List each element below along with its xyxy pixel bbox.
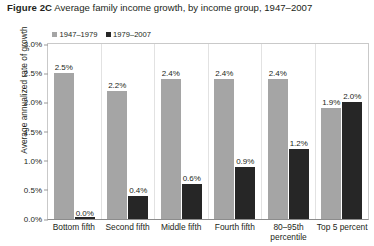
y-tick-label: 3.0%: [24, 40, 48, 49]
bar-value-label: 0.0%: [76, 209, 94, 218]
legend-swatch-icon: [106, 32, 111, 37]
bar-value-label: 2.4%: [215, 69, 233, 78]
bar[interactable]: [268, 79, 288, 219]
bar-column: 2.4%: [268, 44, 288, 219]
legend-swatch-icon: [52, 32, 57, 37]
y-tick-label: 1.0%: [24, 156, 48, 165]
x-axis-labels: Bottom fifthSecond fifthMiddle fifthFour…: [47, 222, 369, 243]
bar-group: 2.4%0.9%: [209, 44, 263, 219]
bar-group: 2.2%0.4%: [102, 44, 156, 219]
bar-column: 2.5%: [54, 44, 74, 219]
x-tick-label: Top 5 percent: [315, 222, 369, 243]
x-tick-label: 80–95th percentile: [262, 222, 316, 243]
bar-column: 1.2%: [289, 44, 309, 219]
bar-pair: 2.5%0.0%: [48, 44, 101, 219]
bar-group: 2.4%1.2%: [262, 44, 316, 219]
bar-value-label: 0.9%: [236, 157, 254, 166]
bar-pair: 1.9%2.0%: [316, 44, 369, 219]
legend-item-1947-1979: 1947–1979: [52, 30, 98, 39]
bar[interactable]: [235, 167, 255, 220]
bar-value-label: 0.4%: [129, 186, 147, 195]
bar-column: 2.2%: [107, 44, 127, 219]
bar-group: 1.9%2.0%: [316, 44, 369, 219]
figure-number: Figure 2C: [7, 2, 52, 13]
legend-label: 1947–1979: [60, 30, 98, 39]
bar-pair: 2.4%0.6%: [155, 44, 208, 219]
bar-group: 2.4%0.6%: [155, 44, 209, 219]
bar-value-label: 2.5%: [55, 63, 73, 72]
chart-legend: 1947–1979 1979–2007: [52, 30, 151, 39]
bar-pair: 2.4%0.9%: [209, 44, 262, 219]
x-tick-label: Bottom fifth: [47, 222, 101, 243]
bar-value-label: 2.4%: [162, 69, 180, 78]
bar-column: 0.6%: [182, 44, 202, 219]
bar-value-label: 1.2%: [290, 139, 308, 148]
bar[interactable]: [182, 184, 202, 219]
bar-groups: 2.5%0.0%2.2%0.4%2.4%0.6%2.4%0.9%2.4%1.2%…: [48, 44, 368, 219]
bar[interactable]: [54, 73, 74, 219]
bar-column: 1.9%: [321, 44, 341, 219]
plot-area: 3.0% 2.5% 2.0% 1.5% 1.0% 0.5% 0.0% 2.5%0…: [47, 43, 369, 220]
x-tick-label: Second fifth: [101, 222, 155, 243]
bar-value-label: 2.2%: [108, 81, 126, 90]
bar-column: 2.4%: [161, 44, 181, 219]
x-tick-label: Middle fifth: [154, 222, 208, 243]
figure-title-block: Figure 2C Average family income growth, …: [7, 2, 369, 15]
x-tick-label: Fourth fifth: [208, 222, 262, 243]
bar[interactable]: [214, 79, 234, 219]
y-tick-label: 1.5%: [24, 127, 48, 136]
y-tick-label: 0.5%: [24, 185, 48, 194]
bar-pair: 2.4%1.2%: [262, 44, 315, 219]
page-title: Average family income growth, by income …: [54, 2, 312, 13]
legend-label: 1979–2007: [113, 30, 151, 39]
bar-value-label: 1.9%: [322, 98, 340, 107]
y-tick-label: 0.0%: [24, 215, 48, 224]
bar[interactable]: [128, 196, 148, 219]
bar-column: 0.9%: [235, 44, 255, 219]
bar[interactable]: [342, 102, 362, 219]
bar-pair: 2.2%0.4%: [102, 44, 155, 219]
bar-column: 2.4%: [214, 44, 234, 219]
bar-value-label: 2.0%: [343, 92, 361, 101]
bar-value-label: 2.4%: [269, 69, 287, 78]
bar-value-label: 0.6%: [183, 174, 201, 183]
figure-2c: Figure 2C Average family income growth, …: [0, 0, 374, 246]
legend-item-1979-2007: 1979–2007: [106, 30, 152, 39]
bar[interactable]: [289, 149, 309, 219]
y-tick-label: 2.5%: [24, 69, 48, 78]
bar-column: 0.4%: [128, 44, 148, 219]
bar[interactable]: [107, 91, 127, 219]
bar[interactable]: [161, 79, 181, 219]
y-tick-label: 2.0%: [24, 98, 48, 107]
bar-column: 0.0%: [75, 44, 95, 219]
y-axis-title: Average annualized rate of growth: [19, 0, 29, 180]
bar[interactable]: [321, 108, 341, 219]
bar-group: 2.5%0.0%: [48, 44, 102, 219]
bar-column: 2.0%: [342, 44, 362, 219]
